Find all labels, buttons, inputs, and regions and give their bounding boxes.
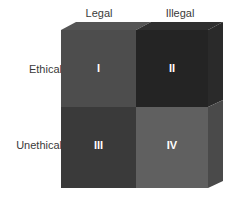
side-bevel-top xyxy=(208,22,223,107)
quadrant-2-label: II xyxy=(169,62,175,74)
matrix-block: I II III IV xyxy=(0,0,234,197)
quadrant-1-label: I xyxy=(97,62,100,74)
quadrant-3-label: III xyxy=(94,139,103,151)
matrix-svg: I II III IV xyxy=(0,0,234,197)
quadrant-4-label: IV xyxy=(167,139,178,151)
top-bevel-left xyxy=(61,22,151,30)
side-bevel-bottom xyxy=(208,100,223,188)
top-bevel-right xyxy=(136,22,223,30)
ethics-legality-matrix-figure: Legal Illegal Ethical Unethical I II III xyxy=(0,0,234,197)
